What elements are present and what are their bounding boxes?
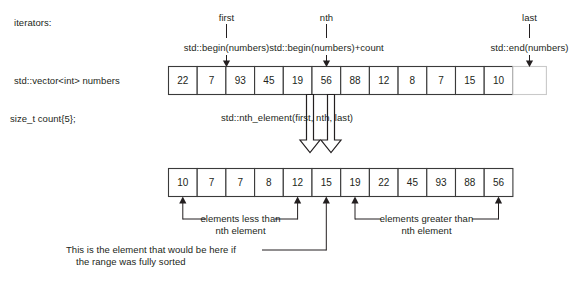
after-cell-value: 7 [237,178,243,188]
iterator-expr-nth: std::begin(numbers)+count [269,42,384,53]
iterator-name-nth: nth [320,12,333,23]
after-cell-value: 12 [292,178,303,188]
left-label-count-decl: size_t count{5}; [10,113,76,124]
iterator-expr-first: std::begin(numbers) [184,42,269,53]
iterator-expr-last: std::end(numbers) [491,42,569,53]
before-cell-value: 8 [410,76,416,86]
after-cell-value: 93 [436,178,447,188]
after-cell-value: 88 [464,178,475,188]
operation-label: std::nth_element(first, nth, last) [221,112,353,123]
after-cell-value: 22 [378,178,389,188]
after-cell-value: 56 [493,178,504,188]
callout-line1: This is the element that would be here i… [66,244,236,255]
before-cell-value: 19 [292,76,303,86]
bracket-label-less-than: elements less than nth element [200,213,280,237]
left-label-vector-decl: std::vector<int> numbers [14,75,120,86]
after-cell-value: 45 [407,178,418,188]
bracket-greater-line2: nth element [401,225,451,236]
before-cell-value: 22 [177,76,188,86]
after-cell-value: 19 [349,178,360,188]
bracket-label-greater-than: elements greater than nth element [380,213,473,237]
before-cell-value: 56 [321,76,332,86]
callout-line2: the range was fully sorted [76,256,186,268]
before-cell-value: 88 [349,76,360,86]
iterator-name-last: last [522,12,537,23]
after-array-cells [169,169,513,197]
after-cell-value: 15 [321,178,332,188]
after-cell-value: 10 [177,178,188,188]
after-cell-value: 8 [266,178,272,188]
before-cell-value: 12 [378,76,389,86]
bracket-greater-line1: elements greater than [380,213,473,224]
after-cell-value: 7 [209,178,215,188]
before-cell-value: 7 [438,76,444,86]
before-cell-value: 45 [263,76,274,86]
before-cell-value: 15 [464,76,475,86]
before-cell-value: 10 [493,76,504,86]
bracket-less-line2: nth element [215,225,265,236]
before-cell-value: 93 [235,76,246,86]
before-cell-value: 7 [209,76,215,86]
left-label-iterators: iterators: [14,17,51,28]
nth-element-operation-arrow [300,95,341,153]
iterator-name-first: first [219,12,235,23]
callout-text: This is the element that would be here i… [66,244,236,268]
past-the-end-cell [513,67,547,95]
bracket-less-line1: elements less than [200,213,280,224]
